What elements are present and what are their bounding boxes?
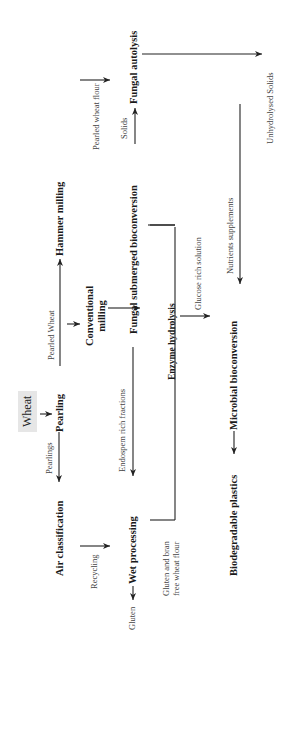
enzyme-hydrolysis-node: Enzyme hydrolysis [167,303,178,380]
hammer-milling-node: Hammer milling [54,182,66,256]
pearled-wheat-flour-label: Pearled wheat flour [92,83,102,150]
wheat-start-node: Wheat [18,391,37,432]
gluten-bran-label: Gluten and bran free wheat flour [162,541,182,596]
nutrients-label: Nutrients supplements [226,198,236,274]
endosperm-label: Endospem rich fractions [118,389,128,472]
fungal-autolysis-node: Fungal autolysis [128,31,140,104]
wet-processing-node: Wet processing [127,516,139,584]
process-flow-diagram: Wheat Pearling Pearlings Air classificat… [0,0,286,744]
arrows-layer [0,0,286,744]
recycling-label: Recycling [90,555,100,589]
solids-label: Solids [120,118,130,139]
conventional-milling-line1: Conventional [84,286,96,346]
glucose-label: Glucose rich solution [194,237,204,310]
pearling-node: Pearling [54,394,66,432]
biodegradable-plastics-node: Biodegradable plastics [228,475,240,576]
microbial-bioconversion-node: Microbial bioconversion [228,321,240,430]
pearled-wheat-label: Pearled Wheat [47,310,57,360]
pearlings-label: Pearlings [45,442,55,474]
conventional-milling-node: Conventional milling [84,286,108,346]
gluten-bran-line2: free wheat flour [172,541,182,596]
conventional-milling-line2: milling [96,286,108,346]
fungal-submerged-node: Fungal submerged bioconversion [128,185,140,334]
unhydrolysed-label: Unhydrolysed Solids [266,72,276,144]
wheat-label: Wheat [20,396,34,427]
gluten-label: Gluten [128,607,138,630]
air-classification-node: Air classification [54,501,66,576]
